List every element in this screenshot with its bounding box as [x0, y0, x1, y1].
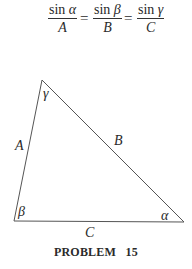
angle-alpha-label: α [161, 209, 168, 223]
triangle-outline [14, 80, 184, 222]
side-a-label: A [15, 139, 24, 153]
problem-caption: PROBLEM 15 [0, 245, 192, 260]
triangle-diagram [0, 0, 192, 269]
angle-beta-label: β [18, 205, 25, 219]
side-c-label: C [85, 226, 94, 240]
side-b-label: B [114, 134, 123, 148]
angle-gamma-label: γ [43, 87, 49, 101]
